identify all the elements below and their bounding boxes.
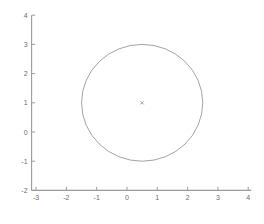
y-tick-label: 2 (24, 70, 28, 77)
center-point-marker (141, 101, 144, 104)
circle-plot-svg: -3-2-10123443210-1-2 (0, 0, 264, 224)
x-tick-label: 1 (155, 194, 159, 201)
axes (32, 15, 252, 190)
y-tick-label: -1 (21, 158, 27, 165)
x-tick-label: -2 (63, 194, 69, 201)
x-tick-label: 4 (246, 194, 250, 201)
y-tick-label: 3 (24, 41, 28, 48)
y-axis-ticks: 43210-1-2 (21, 12, 35, 194)
x-tick-label: 2 (186, 194, 190, 201)
y-tick-label: 4 (24, 12, 28, 19)
x-tick-label: -3 (33, 194, 39, 201)
x-tick-label: 0 (125, 194, 129, 201)
y-tick-label: -2 (21, 187, 27, 194)
data-series (82, 44, 203, 161)
x-tick-label: -1 (94, 194, 100, 201)
plot-figure: -3-2-10123443210-1-2 (0, 0, 264, 224)
y-tick-label: 0 (24, 129, 28, 136)
x-axis-ticks: -3-2-101234 (33, 187, 250, 202)
y-tick-label: 1 (24, 99, 28, 106)
x-tick-label: 3 (216, 194, 220, 201)
